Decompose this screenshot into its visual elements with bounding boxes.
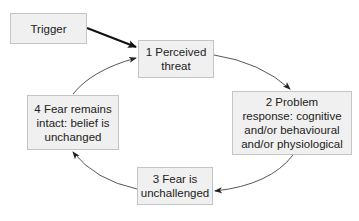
arrow-trigger-to-perceived-threat [87, 28, 136, 47]
node-fear-remains: 4 Fear remains intact: belief is unchang… [27, 95, 119, 150]
node-perceived-threat: 1 Perceived threat [138, 40, 214, 78]
arrow-problem-response-to-fear-unchallenged [215, 155, 293, 191]
arrow-fear-unchallenged-to-fear-remains [73, 152, 137, 189]
arrow-fear-remains-to-perceived-threat [73, 58, 136, 94]
node-perceived-threat-label: 1 Perceived threat [143, 45, 209, 73]
node-problem-response-label: 2 Problem response: cognitive and/or beh… [241, 95, 343, 151]
node-trigger: Trigger [10, 13, 87, 44]
node-fear-remains-label: 4 Fear remains intact: belief is unchang… [34, 102, 112, 144]
node-trigger-label: Trigger [31, 22, 67, 36]
arrow-perceived-threat-to-problem-response [214, 55, 290, 89]
node-problem-response: 2 Problem response: cognitive and/or beh… [232, 91, 352, 155]
node-fear-unchallenged: 3 Fear is unchallenged [137, 167, 213, 205]
node-fear-unchallenged-label: 3 Fear is unchallenged [141, 172, 209, 200]
